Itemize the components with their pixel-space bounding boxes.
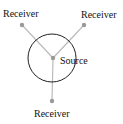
link-receiver-2 [53,25,84,58]
receiver-node-3 [50,99,54,103]
receiver-label-3: Receiver [34,108,70,119]
source-node [51,56,55,60]
link-receiver-1 [22,25,53,58]
receiver-node-2 [82,23,86,27]
source-receiver-diagram: Receiver Receiver Receiver Source [0,0,123,124]
link-receiver-3 [52,58,53,101]
receiver-label-1: Receiver [3,8,39,19]
source-label: Source [60,55,88,66]
receiver-node-1 [20,23,24,27]
receiver-label-2: Receiver [81,9,117,20]
